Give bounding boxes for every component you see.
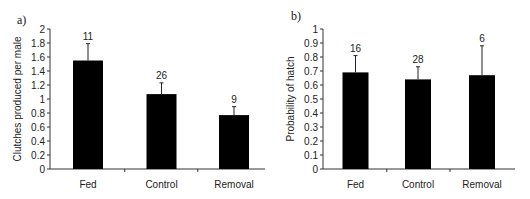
y-tick-label: 1.8: [31, 38, 45, 49]
panel-label: b): [291, 9, 301, 23]
bar-control: [405, 79, 431, 169]
x-category-label: Control: [145, 179, 177, 190]
y-axis-label: Probability of hatch: [285, 56, 296, 141]
y-tick-label: 0.4: [304, 108, 318, 119]
y-tick-label: 0.9: [304, 38, 318, 49]
y-tick-label: 0.5: [304, 94, 318, 105]
y-axis-label: Clutches produced per male: [12, 36, 23, 162]
bar-removal: [469, 75, 495, 169]
sample-size-label: 28: [412, 54, 424, 65]
y-tick-label: 1: [39, 94, 45, 105]
sample-size-label: 9: [231, 94, 237, 105]
y-tick-label: 0.7: [304, 66, 318, 77]
x-category-label: Removal: [462, 179, 501, 190]
y-tick-label: 0.2: [31, 150, 45, 161]
x-category-label: Removal: [214, 179, 253, 190]
bar-control: [147, 94, 177, 169]
y-tick-label: 0.3: [304, 122, 318, 133]
chart-panel-b: b)00.10.20.30.40.50.60.70.80.91Probabili…: [285, 9, 515, 190]
y-tick-label: 0.2: [304, 136, 318, 147]
sample-size-label: 11: [83, 31, 94, 42]
sample-size-label: 16: [350, 43, 362, 54]
sample-size-label: 26: [156, 70, 168, 81]
y-tick-label: 1.6: [31, 52, 45, 63]
bar-fed: [73, 61, 103, 170]
y-tick-label: 1.2: [31, 80, 45, 91]
y-tick-label: 0.8: [31, 108, 45, 119]
x-category-label: Fed: [79, 179, 96, 190]
y-tick-label: 0: [312, 164, 318, 175]
bar-fed: [343, 72, 369, 169]
panel-label: a): [17, 13, 26, 27]
y-tick-label: 0.1: [304, 150, 318, 161]
y-tick-label: 0.6: [31, 122, 45, 133]
y-tick-label: 1: [312, 24, 318, 35]
figure-canvas: a)00.20.40.60.811.21.41.61.82Clutches pr…: [0, 0, 530, 199]
bar-removal: [219, 115, 249, 169]
y-tick-label: 1.4: [31, 66, 45, 77]
y-tick-label: 0.6: [304, 80, 318, 91]
y-tick-label: 0.4: [31, 136, 45, 147]
x-category-label: Control: [402, 179, 434, 190]
y-tick-label: 0: [39, 164, 45, 175]
y-tick-label: 0.8: [304, 52, 318, 63]
chart-panel-a: a)00.20.40.60.811.21.41.61.82Clutches pr…: [12, 13, 265, 190]
x-category-label: Fed: [347, 179, 364, 190]
y-tick-label: 2: [39, 24, 45, 35]
sample-size-label: 6: [479, 33, 485, 44]
